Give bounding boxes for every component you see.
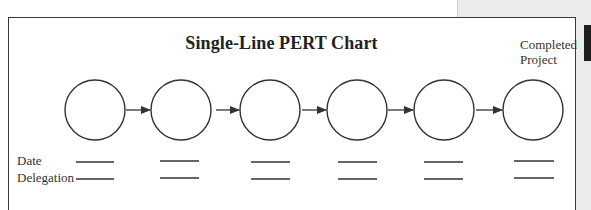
node-3 bbox=[240, 80, 300, 140]
node-5 bbox=[414, 80, 474, 140]
delegation-row-label: Delegation bbox=[17, 170, 74, 186]
node-1 bbox=[65, 80, 125, 140]
pert-diagram bbox=[0, 0, 591, 210]
node-6-completed-project bbox=[503, 80, 563, 140]
node-4 bbox=[327, 80, 387, 140]
date-row-label: Date bbox=[17, 153, 42, 169]
node-2 bbox=[151, 80, 211, 140]
